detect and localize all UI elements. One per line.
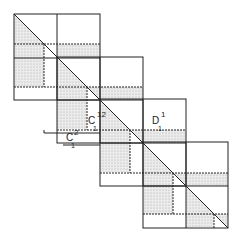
block-outlines [14, 14, 228, 228]
label-superscript: 1 [161, 111, 165, 119]
block-staircase-diagram [0, 0, 238, 240]
label-c1-2: C 1 2 [66, 133, 73, 143]
main-diagonal [14, 14, 228, 228]
label-superscript: 2 [74, 129, 78, 137]
label-superscript: 12 [97, 111, 106, 119]
label-c1-12: C 1 12 [88, 116, 95, 126]
label-subscript: 1 [71, 142, 75, 149]
label-d1-1: D 1 1 [152, 116, 159, 126]
label-subscript: 1 [158, 125, 162, 132]
label-subscript: 1 [93, 125, 97, 132]
